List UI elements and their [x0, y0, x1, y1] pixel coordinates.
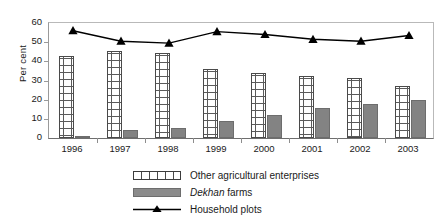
y-axis-tick-label: 30: [20, 75, 42, 85]
chart-legend: Other agricultural enterprisesDekhan far…: [133, 167, 433, 218]
y-axis-tick-label: 10: [20, 113, 42, 123]
legend-label: Household plots: [190, 204, 262, 215]
y-axis-tick-mark: [44, 61, 49, 62]
legend-label: Dekhan farms: [190, 187, 252, 198]
household-plots-line-series: [49, 23, 433, 138]
x-axis-tick-label: 2003: [384, 143, 432, 154]
y-axis-tick-label: 50: [20, 36, 42, 46]
legend-item: Other agricultural enterprises: [133, 167, 433, 184]
y-axis-tick-mark: [44, 81, 49, 82]
y-axis-tick-label: 0: [20, 132, 42, 142]
solid-gray-swatch: [133, 188, 181, 197]
y-axis-tick-mark: [44, 42, 49, 43]
y-axis-tick-label: 20: [20, 94, 42, 104]
x-axis-tick-label: 1996: [48, 143, 96, 154]
x-axis-tick-label: 2000: [240, 143, 288, 154]
legend-item: Dekhan farms: [133, 184, 433, 201]
x-axis-tick-label: 1998: [144, 143, 192, 154]
y-axis-tick-mark: [44, 119, 49, 120]
y-axis-tick-labels: 6050403020100: [18, 0, 42, 224]
x-axis-tick-label: 2002: [336, 143, 384, 154]
chart-container: Per cent 6050403020100 19961997199819992…: [0, 0, 440, 224]
legend-item: Household plots: [133, 201, 433, 218]
x-axis-tick-label: 1999: [192, 143, 240, 154]
grid-pattern-swatch: [133, 171, 181, 180]
household-plots-marker: [404, 31, 413, 39]
x-axis-tick-label: 1997: [96, 143, 144, 154]
y-axis-tick-mark: [44, 100, 49, 101]
line-triangle-swatch: [133, 205, 181, 214]
household-plots-marker: [68, 26, 77, 34]
legend-label: Other agricultural enterprises: [190, 170, 319, 181]
x-axis-tick-label: 2001: [288, 143, 336, 154]
y-axis-tick-label: 60: [20, 17, 42, 27]
y-axis-tick-label: 40: [20, 55, 42, 65]
plot-area: [48, 22, 434, 139]
